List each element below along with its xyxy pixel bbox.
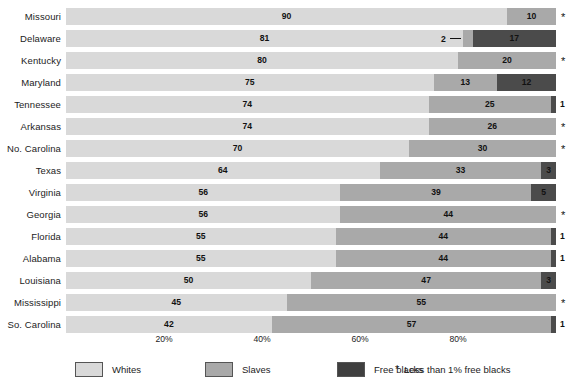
less-than-one-percent-asterisk: * [561,140,565,157]
less-than-one-percent-asterisk: * [561,52,565,69]
bar-row: Maryland751312 [0,74,577,91]
bar-row: Texas64333 [0,162,577,179]
bar-row: Tennessee74251 [0,96,577,113]
row-label-kentucky: Kentucky [0,52,61,69]
row-label-maryland: Maryland [0,74,61,91]
bar-row: Mississippi4555* [0,294,577,311]
segment-slaves: 44 [336,250,552,267]
segment-value-whites: 56 [198,188,208,197]
legend-item-slaves[interactable]: Slaves [205,360,271,379]
x-axis: 20%40%60%80% [66,334,556,348]
segment-whites: 50 [66,272,311,289]
bar-track: 7030 [66,140,556,157]
segment-whites: 81 [66,30,463,47]
segment-slaves: 13 [434,74,498,91]
segment-value-slaves: 25 [485,100,495,109]
leader-line [450,38,461,39]
bar-row: Virginia56395 [0,184,577,201]
row-label-mississippi: Mississippi [0,294,61,311]
less-than-one-percent-asterisk: * [561,8,565,25]
segment-slaves: 39 [340,184,531,201]
bar-row: Louisiana50473 [0,272,577,289]
asterisk-icon: * [395,364,399,375]
row-label-alabama: Alabama [0,250,61,267]
chart-legend: WhitesSlavesFree blacks*Less than 1% fre… [0,360,577,382]
segment-value-whites: 80 [257,56,267,65]
segment-value-slaves: 44 [443,210,453,219]
axis-tick-label: 80% [449,334,466,344]
segment-value-whites: 75 [245,78,255,87]
segment-free-blacks [551,228,556,245]
segment-free-blacks: 5 [531,184,556,201]
axis-tick-label: 40% [253,334,270,344]
bar-track: 751312 [66,74,556,91]
segment-value-free-blacks: 12 [522,78,532,87]
less-than-one-percent-asterisk: * [561,206,565,223]
segment-value-free-blacks: 3 [546,276,551,285]
segment-value-slaves: 47 [421,276,431,285]
row-label-florida: Florida [0,228,61,245]
segment-free-blacks: 17 [473,30,556,47]
segment-value-whites: 42 [164,320,174,329]
segment-whites: 80 [66,52,458,69]
segment-value-slaves: 33 [456,166,466,175]
segment-whites: 45 [66,294,287,311]
bar-row: So. Carolina42571 [0,316,577,333]
segment-value-free-blacks-outside: 1 [560,316,565,333]
bar-track: 50473 [66,272,556,289]
legend-swatch-free-blacks [337,362,365,377]
bar-track: 7426 [66,118,556,135]
bar-track: 81217 [66,30,556,47]
axis-tick-label: 60% [351,334,368,344]
segment-value-whites: 50 [184,276,194,285]
segment-value-whites: 64 [218,166,228,175]
segment-slaves: 55 [287,294,557,311]
row-label-georgia: Georgia [0,206,61,223]
segment-whites: 55 [66,228,336,245]
bar-track: 56395 [66,184,556,201]
segment-value-slaves: 55 [416,298,426,307]
segment-value-whites: 55 [196,254,206,263]
bar-track: 5544 [66,250,556,267]
bar-row: Kentucky8020* [0,52,577,69]
row-label-louisiana: Louisiana [0,272,61,289]
segment-value-free-blacks-outside: 1 [560,96,565,113]
legend-swatch-whites [75,362,103,377]
row-label-arkansas: Arkansas [0,118,61,135]
segment-value-free-blacks: 17 [510,34,520,43]
segment-value-whites: 56 [198,210,208,219]
segment-slaves: 20 [458,52,556,69]
segment-slaves: 47 [311,272,541,289]
segment-free-blacks [551,96,556,113]
legend-item-whites[interactable]: Whites [75,360,141,379]
bar-row: Florida55441 [0,228,577,245]
segment-value-slaves: 39 [431,188,441,197]
bar-track: 4257 [66,316,556,333]
segment-value-slaves-callout: 2 [441,30,463,47]
segment-whites: 70 [66,140,409,157]
segment-value-whites: 74 [243,100,253,109]
segment-value-free-blacks-outside: 1 [560,228,565,245]
segment-whites: 75 [66,74,434,91]
segment-value-free-blacks: 5 [541,188,546,197]
segment-whites: 90 [66,8,507,25]
segment-value-whites: 55 [196,232,206,241]
segment-whites: 74 [66,96,429,113]
row-label-delaware: Delaware [0,30,61,47]
row-label-virginia: Virginia [0,184,61,201]
segment-slaves: 57 [272,316,551,333]
segment-value-whites: 45 [171,298,181,307]
segment-value-whites: 90 [282,12,292,21]
segment-slaves: 25 [429,96,552,113]
axis-tick-label: 20% [155,334,172,344]
segment-whites: 42 [66,316,272,333]
segment-slaves: 10 [507,8,556,25]
segment-whites: 56 [66,206,340,223]
plot-area: Missouri9010*Delaware81217Kentucky8020*M… [0,8,577,338]
bar-track: 5544 [66,228,556,245]
less-than-one-percent-asterisk: * [561,294,565,311]
bar-row: Georgia5644* [0,206,577,223]
segment-value-slaves: 13 [461,78,471,87]
bar-row: No. Carolina7030* [0,140,577,157]
segment-whites: 74 [66,118,429,135]
